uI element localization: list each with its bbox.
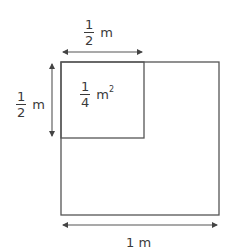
bottom-dimension-label: 1 m	[126, 236, 151, 249]
top-fraction-denominator: 2	[84, 34, 94, 47]
left-unit: m	[32, 98, 45, 111]
area-unit-exponent: 2	[109, 85, 114, 94]
area-fraction: 1 4	[80, 80, 90, 109]
bottom-dimension-text: 1 m	[126, 236, 151, 249]
area-unit-base: m	[96, 87, 109, 102]
left-dimension-label: 1 2 m	[16, 90, 45, 119]
area-diagram	[0, 0, 233, 252]
left-fraction-denominator: 2	[16, 106, 26, 119]
area-fraction-numerator: 1	[80, 80, 90, 93]
left-fraction: 1 2	[16, 90, 26, 119]
small-square-area-label: 1 4 m2	[80, 80, 114, 109]
top-dimension-label: 1 2 m	[84, 18, 113, 47]
top-unit: m	[100, 26, 113, 39]
top-fraction: 1 2	[84, 18, 94, 47]
top-fraction-numerator: 1	[84, 18, 94, 31]
left-fraction-numerator: 1	[16, 90, 26, 103]
area-fraction-denominator: 4	[80, 96, 90, 109]
area-unit: m2	[96, 88, 114, 101]
